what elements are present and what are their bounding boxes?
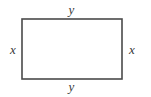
- label-left-side-x: x: [6, 43, 20, 56]
- rectangle-diagram: y y x x: [0, 0, 151, 97]
- label-right-side-x: x: [125, 43, 139, 56]
- label-top-side-y: y: [0, 3, 143, 16]
- label-bottom-side-y: y: [0, 80, 143, 93]
